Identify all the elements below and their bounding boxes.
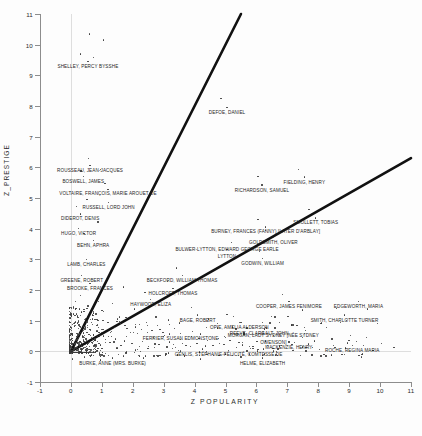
point-label: RICHARDSON, SAMUEL <box>235 187 290 192</box>
point-label: MACKENZIE, HENRY <box>265 344 312 349</box>
point-label: ROCHE, REGINA MARIA <box>325 347 380 352</box>
x-tick-label--1: -1 <box>37 387 43 394</box>
x-tick-label-5: 5 <box>224 387 228 394</box>
y-tick-label-1: 1 <box>29 317 33 324</box>
point-label: BROOKE, FRANCES <box>67 285 113 290</box>
point-label: HELME, ELIZABETH <box>240 360 285 365</box>
point-label: DIDEROT, DENIS <box>61 216 99 221</box>
y-tick-11 <box>35 14 40 15</box>
x-tick-label-11: 11 <box>408 387 415 394</box>
y-tick-label-3: 3 <box>29 256 33 263</box>
y-tick-0 <box>35 351 40 352</box>
x-tick-label-4: 4 <box>193 387 197 394</box>
y-tick-10 <box>35 45 40 46</box>
point-label: BULWER-LYTTON, EDWARD GEORGE EARLE LYTTO… <box>168 247 286 261</box>
point-label: SHELLEY, PERCY BYSSHE <box>57 64 118 69</box>
x-tick-label-7: 7 <box>286 387 290 394</box>
point-label: GENLIS, STÉPHANIE-FÉLICITÉ, COMTESSE DE <box>175 352 283 359</box>
point-label: BAGE, ROBERT <box>180 317 216 322</box>
y-tick-label-0: 0 <box>29 348 33 355</box>
point-label: GOLDSMITH, OLIVER <box>249 239 298 244</box>
point-label: BURNEY, FRANCES (FANNY) [LATER D'ARBLAY] <box>211 228 320 235</box>
y-tick-4 <box>35 229 40 230</box>
y-tick-label-4: 4 <box>29 225 33 232</box>
scatter-plot: SHELLEY, PERCY BYSSHEDEFOE, DANIELROUSSE… <box>0 0 422 436</box>
y-axis <box>40 14 41 382</box>
point-label: OPIE, AMELIA ALDERSON <box>210 324 269 329</box>
x-tick-label-3: 3 <box>162 387 166 394</box>
x-tick-label-0: 0 <box>69 387 73 394</box>
y-tick-label-8: 8 <box>29 103 33 110</box>
y-tick-1 <box>35 321 40 322</box>
point-label: SMOLLETT, TOBIAS <box>293 220 338 225</box>
y-tick-label-9: 9 <box>29 72 33 79</box>
point-label: FERRIER, SUSAN EDMONSTONE <box>143 336 219 341</box>
point-label: HOLCROFT, THOMAS <box>149 290 198 295</box>
y-tick-7 <box>35 137 40 138</box>
point-label: BEHN, APHRA <box>77 242 109 247</box>
point-label: BOSWELL, JAMES <box>62 179 104 184</box>
point-label: HUGO, VICTOR <box>61 231 96 236</box>
y-tick-6 <box>35 167 40 168</box>
y-tick-label-7: 7 <box>29 133 33 140</box>
point-label: LAMB, CHARLES <box>67 261 105 266</box>
y-tick-label-5: 5 <box>29 195 33 202</box>
y-tick-2 <box>35 290 40 291</box>
x-tick-label-9: 9 <box>347 387 351 394</box>
y-tick-label-10: 10 <box>26 41 33 48</box>
x-axis-title: Z POPULARITY <box>191 398 259 405</box>
point-label: ROUSSEAU, JEAN-JACQUES <box>57 168 123 173</box>
point-label: DEFOE, DANIEL <box>209 110 246 115</box>
x-tick-label-10: 10 <box>376 387 383 394</box>
y-axis-title: Z_PRESTIGE <box>3 144 10 196</box>
point-label: GODWIN, WILLIAM <box>241 261 284 266</box>
point-label: EDGEWORTH, MARIA <box>334 304 383 309</box>
point-label: FIELDING, HENRY <box>284 179 326 184</box>
x-tick-label-8: 8 <box>316 387 320 394</box>
y-tick-3 <box>35 259 40 260</box>
point-label: RUSSELL, LORD JOHN <box>83 204 135 209</box>
y-tick-label-11: 11 <box>26 11 33 18</box>
point-label: GREENE, ROBERT <box>60 277 103 282</box>
point-label: VOLTAIRE, FRANÇOIS, MARIE AROUET DE <box>59 190 156 197</box>
point-labels-layer: SHELLEY, PERCY BYSSHEDEFOE, DANIELROUSSE… <box>0 0 422 436</box>
x-tick-label-6: 6 <box>255 387 259 394</box>
y-tick-9 <box>35 75 40 76</box>
point-label: BURKE, ANNE (MRS. BURKE) <box>79 360 146 365</box>
y-tick-label--1: -1 <box>27 379 33 386</box>
x-tick-label-1: 1 <box>100 387 104 394</box>
y-tick-5 <box>35 198 40 199</box>
y-tick-8 <box>35 106 40 107</box>
y-tick-label-2: 2 <box>29 287 33 294</box>
point-label: SMITH, CHARLOTTE TURNER <box>311 317 379 322</box>
point-label: COOPER, JAMES FENIMORE <box>256 304 322 309</box>
x-tick-label-2: 2 <box>131 387 135 394</box>
point-label: HAYWOOD, ELIZA <box>130 302 171 307</box>
point-label: BECKFORD, WILLIAM THOMAS <box>147 277 218 282</box>
y-tick-label-6: 6 <box>29 164 33 171</box>
